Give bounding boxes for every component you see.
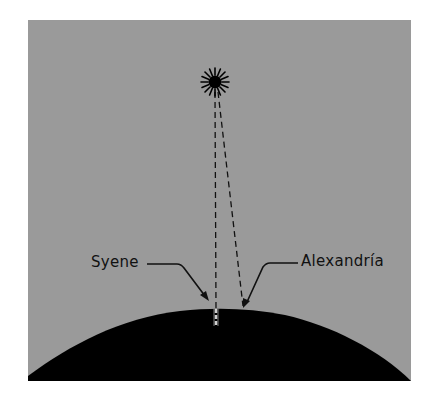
eratosthenes-diagram bbox=[0, 0, 431, 402]
sun-icon bbox=[201, 68, 229, 96]
label-alexandria: Alexandría bbox=[301, 252, 384, 270]
label-syene: Syene bbox=[91, 253, 139, 271]
